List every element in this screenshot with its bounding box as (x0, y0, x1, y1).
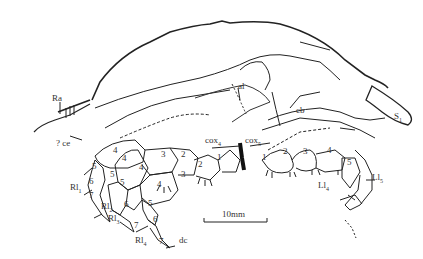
segment-number: 4 (113, 146, 118, 155)
label-cb: cb (296, 106, 305, 115)
label-ll5: Ll5 (372, 173, 383, 184)
segment-number: 2 (283, 147, 288, 156)
segment-number: 4 (139, 163, 144, 172)
label-rl2: Rl2 (101, 202, 113, 213)
label-s1: S1 (394, 112, 402, 123)
segment-number: 5 (148, 199, 153, 208)
segment-number: 2 (181, 150, 186, 159)
segment-number: 1 (217, 153, 222, 162)
label-rl1: Rl1 (70, 183, 82, 194)
label-dc: dc (179, 236, 188, 245)
label-al: al (238, 82, 245, 91)
label-cox5: cox5 (245, 136, 261, 147)
segment-number: 7 (89, 191, 94, 200)
segment-number: 5 (92, 162, 97, 171)
label-ll4: Ll4 (318, 181, 329, 192)
label-rl4: Rl4 (135, 236, 147, 247)
segment-number: 7 (134, 221, 139, 230)
segment-number: 5 (120, 178, 125, 187)
fossil-diagram: Ra ? ce al cb S1 cox4 cox5 Rl1 Rl2 Rl3 R… (0, 0, 423, 259)
segment-number: 3 (303, 147, 308, 156)
drawing-lines (0, 0, 423, 259)
label-ra: Ra (52, 94, 62, 103)
label-ce: ? ce (56, 139, 70, 148)
label-rl3: Rl3 (108, 214, 120, 225)
segment-number: 4 (157, 180, 162, 189)
segment-number: 3 (161, 150, 166, 159)
segment-number: 4 (122, 154, 127, 163)
segment-number: 5 (110, 170, 115, 179)
segment-number: 5 (347, 158, 352, 167)
segment-number: 4 (327, 146, 332, 155)
scale-bar-label: 10mm (222, 210, 245, 219)
segment-number: 2 (198, 160, 203, 169)
segment-number: 6 (89, 177, 94, 186)
label-cox4: cox4 (205, 136, 221, 147)
segment-number: 6 (124, 200, 129, 209)
segment-number: 6 (153, 215, 158, 224)
segment-number: 3 (181, 170, 186, 179)
segment-number: 1 (262, 153, 267, 162)
segment-number: 7 (159, 237, 164, 246)
